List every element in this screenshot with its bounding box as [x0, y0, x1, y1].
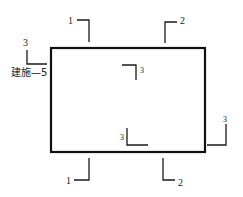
section-cut-symbol: [163, 158, 175, 180]
section-label: 2: [180, 15, 185, 26]
section-label: 3: [223, 115, 227, 124]
reference-sheet: 建施—5: [11, 66, 47, 78]
section-marker-bottom-1: 1: [66, 158, 89, 186]
plan-outline: [51, 48, 205, 152]
reference-note: 3 建施—5: [11, 37, 47, 78]
section-cut-symbol: [77, 20, 89, 42]
section-marker-bottom-2: 2: [163, 158, 183, 188]
section-cut-symbol: [165, 22, 177, 43]
section-cut-symbol: [207, 124, 226, 145]
section-label: 3: [140, 66, 144, 75]
section-marker-inner-top-3: 3: [122, 65, 144, 80]
section-label: 2: [178, 177, 183, 188]
section-cut-symbol: [127, 128, 148, 145]
section-marker-top-2: 2: [165, 15, 185, 43]
section-marker-right-3: 3: [207, 115, 227, 145]
section-cut-symbol: [74, 158, 89, 180]
section-label: 3: [120, 133, 124, 142]
section-marker-top-1: 1: [68, 15, 89, 42]
section-cut-symbol: [122, 65, 136, 80]
section-diagram: 1 2 3 建施—5 3 3 3 1 2: [0, 0, 243, 197]
section-marker-inner-bottom-3: 3: [120, 128, 148, 145]
reference-leader: [27, 50, 47, 64]
section-label: 1: [68, 15, 73, 26]
section-label: 1: [66, 175, 71, 186]
reference-number: 3: [23, 37, 28, 48]
